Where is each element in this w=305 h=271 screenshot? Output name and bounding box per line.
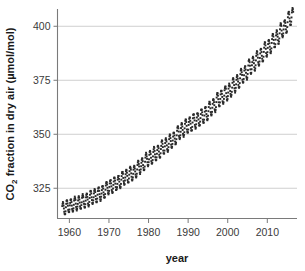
data-point xyxy=(98,190,100,192)
data-point xyxy=(281,30,283,32)
data-point xyxy=(231,94,233,96)
data-point xyxy=(179,137,181,139)
data-point xyxy=(94,189,96,191)
data-point xyxy=(234,92,236,94)
data-point xyxy=(132,173,134,175)
data-point xyxy=(162,143,164,145)
data-point xyxy=(271,42,273,44)
data-point xyxy=(101,193,103,195)
data-point xyxy=(223,101,225,103)
data-point xyxy=(92,202,94,204)
data-point xyxy=(261,58,263,60)
data-point xyxy=(88,204,90,206)
data-point xyxy=(100,196,102,198)
data-point xyxy=(120,183,122,185)
data-point xyxy=(290,21,292,23)
data-point xyxy=(128,174,130,176)
data-point xyxy=(171,146,173,148)
data-point xyxy=(124,183,126,185)
data-point xyxy=(239,82,241,84)
data-point xyxy=(288,13,290,15)
data-point xyxy=(62,202,64,204)
data-point xyxy=(216,97,218,99)
data-point xyxy=(187,129,189,131)
data-point xyxy=(166,141,168,143)
data-point xyxy=(199,121,201,123)
data-point xyxy=(166,144,168,146)
data-point xyxy=(290,24,292,26)
data-point xyxy=(136,175,138,177)
data-point xyxy=(273,39,275,41)
data-point xyxy=(248,60,250,62)
data-point xyxy=(169,134,171,136)
data-point xyxy=(263,51,265,53)
data-point xyxy=(104,193,106,195)
data-point xyxy=(228,88,230,90)
data-point xyxy=(183,131,185,133)
data-point xyxy=(142,160,144,162)
data-point xyxy=(118,178,120,180)
data-point xyxy=(183,136,185,138)
data-point xyxy=(65,206,67,208)
data-point xyxy=(103,191,105,193)
data-point xyxy=(211,111,213,113)
data-point xyxy=(233,78,235,80)
data-point xyxy=(132,176,134,178)
data-point xyxy=(170,137,172,139)
data-point xyxy=(86,193,88,195)
data-point xyxy=(225,88,227,90)
data-point xyxy=(82,193,84,195)
data-point xyxy=(253,59,255,61)
data-point xyxy=(176,134,178,136)
data-point xyxy=(100,200,102,202)
data-point xyxy=(122,177,124,179)
data-point xyxy=(93,196,95,198)
data-point xyxy=(243,74,245,76)
data-point xyxy=(207,118,209,120)
data-point xyxy=(215,106,217,108)
data-point xyxy=(94,191,96,193)
data-point xyxy=(265,44,267,46)
data-point xyxy=(287,16,289,18)
data-point xyxy=(190,123,192,125)
data-point xyxy=(122,171,124,173)
data-point xyxy=(286,26,288,28)
data-point xyxy=(280,23,282,25)
data-point xyxy=(90,190,92,192)
data-point xyxy=(233,84,235,86)
data-point xyxy=(132,179,134,181)
data-point xyxy=(80,207,82,209)
data-point xyxy=(112,191,114,193)
data-point xyxy=(136,168,138,170)
data-point xyxy=(153,147,155,149)
data-point xyxy=(208,106,210,108)
data-point xyxy=(249,65,251,67)
data-point xyxy=(139,173,141,175)
data-point xyxy=(212,103,214,105)
co2-keeling-curve-chart: 325350375400 196019701980199020002010 ye… xyxy=(0,0,305,271)
data-point xyxy=(268,40,270,42)
data-point xyxy=(254,70,256,72)
data-point xyxy=(235,83,237,85)
data-point xyxy=(140,165,142,167)
data-point xyxy=(69,204,71,206)
data-point xyxy=(272,36,274,38)
data-point xyxy=(157,146,159,148)
data-point xyxy=(213,101,215,103)
data-point xyxy=(102,188,104,190)
data-point xyxy=(172,140,174,142)
data-point xyxy=(242,81,244,83)
data-point xyxy=(126,169,128,171)
data-point xyxy=(221,96,223,98)
data-point xyxy=(136,173,138,175)
data-point xyxy=(276,30,278,32)
data-point xyxy=(106,182,108,184)
data-point xyxy=(158,147,160,149)
data-point xyxy=(151,162,153,164)
data-point xyxy=(138,160,140,162)
data-point xyxy=(87,199,89,201)
data-point xyxy=(239,73,241,75)
data-point xyxy=(188,124,190,126)
data-point xyxy=(73,204,75,206)
data-point xyxy=(106,184,108,186)
